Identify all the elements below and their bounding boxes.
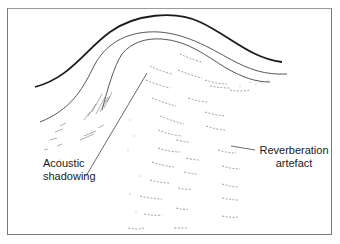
reverberation-echoes bbox=[128, 54, 250, 229]
acoustic-shadowing-label: Acoustic shadowing bbox=[43, 157, 96, 183]
inner-curve-2 bbox=[102, 39, 270, 110]
reverberation-artefact-line2: artefact bbox=[257, 157, 331, 170]
reverberation-artefact-label: Reverberation artefact bbox=[257, 144, 331, 170]
acoustic-shadowing-line1: Acoustic bbox=[43, 157, 96, 170]
ultrasound-diagram: Acoustic shadowing Reverberation artefac… bbox=[0, 0, 340, 244]
diagram-artwork bbox=[0, 0, 340, 244]
inner-curve-1 bbox=[40, 32, 287, 122]
acoustic-shadowing-line2: shadowing bbox=[43, 170, 96, 183]
reverberation-leader-line bbox=[231, 146, 255, 150]
reverberation-artefact-line1: Reverberation bbox=[257, 144, 331, 157]
left-tissue-echoes bbox=[44, 92, 112, 150]
outer-surface-curve bbox=[35, 15, 282, 87]
speckle-dots bbox=[59, 80, 268, 212]
